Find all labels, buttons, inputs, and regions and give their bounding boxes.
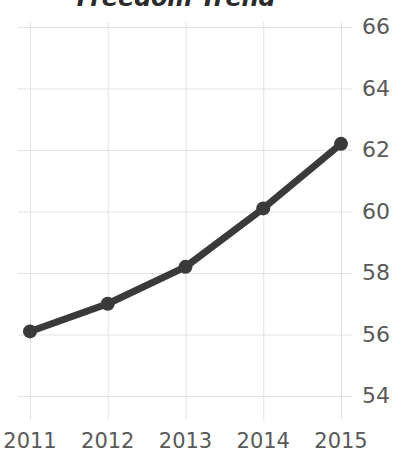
x-tick-label-2015: 2015	[301, 427, 381, 455]
data-point-2012	[101, 297, 115, 311]
data-point-2013	[179, 260, 193, 274]
y-tick-label-62: 62	[362, 139, 410, 161]
line-chart: Freedom Trend 54565860626466 20112012201…	[0, 0, 411, 466]
y-tick-label-56: 56	[362, 324, 410, 346]
data-point-2011	[23, 324, 37, 338]
x-tick-label-2014: 2014	[223, 427, 303, 455]
x-tick-label-2012: 2012	[68, 427, 148, 455]
x-axis-tick-labels: 20112012201320142015	[0, 427, 411, 466]
y-tick-label-64: 64	[362, 78, 410, 100]
chart-canvas	[0, 0, 411, 430]
x-tick-label-2011: 2011	[0, 427, 70, 455]
data-point-2015	[334, 137, 348, 151]
y-tick-label-58: 58	[362, 262, 410, 284]
data-point-2014	[256, 201, 270, 215]
y-tick-label-54: 54	[362, 385, 410, 407]
vertical-gridlines	[31, 22, 342, 420]
x-tick-label-2013: 2013	[146, 427, 226, 455]
y-tick-label-66: 66	[362, 16, 410, 38]
y-tick-label-60: 60	[362, 201, 410, 223]
plot-area	[0, 0, 411, 430]
horizontal-gridlines	[18, 28, 352, 397]
